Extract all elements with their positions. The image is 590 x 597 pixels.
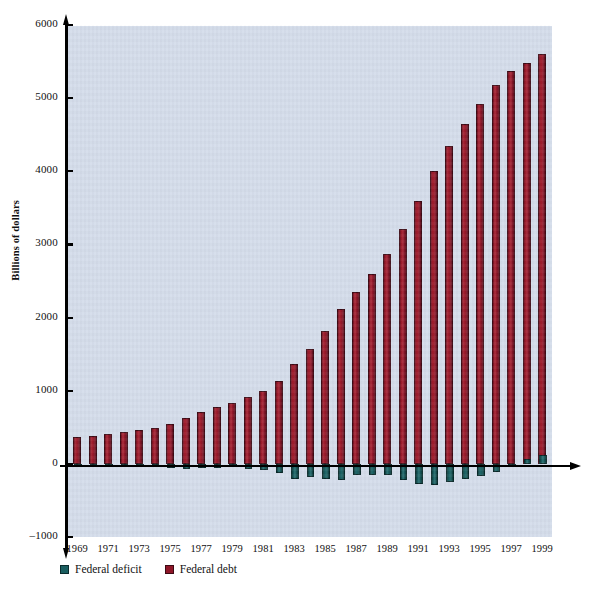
bar-federal-debt [73, 437, 81, 464]
y-axis-spine [65, 23, 68, 550]
y-axis-tick-label: 5000 [6, 90, 58, 102]
bar-federal-debt [399, 229, 407, 463]
y-axis-tick-label: –1000 [6, 529, 58, 541]
bar-federal-debt [259, 391, 267, 464]
bar-federal-debt [275, 381, 283, 464]
y-axis-tick-label: 3000 [6, 236, 58, 248]
y-axis-tick-label: 0 [6, 456, 58, 468]
bar-federal-debt [476, 104, 484, 464]
bar-federal-debt [352, 292, 360, 464]
x-axis-tick-label: 1999 [522, 543, 562, 554]
bar-federal-debt [383, 254, 391, 464]
y-axis-arrow-down-icon [63, 548, 69, 559]
y-axis-tick-label: 4000 [6, 163, 58, 175]
x-axis-arrow-right-icon [570, 462, 581, 470]
legend-item-label: Federal deficit [75, 563, 142, 575]
bar-federal-debt [228, 403, 236, 464]
bar-federal-debt [151, 428, 159, 463]
x-axis-spine [60, 465, 570, 468]
square-swatch-icon [165, 565, 174, 574]
bar-federal-debt [120, 432, 128, 464]
bar-federal-debt [197, 412, 205, 464]
bar-federal-debt [492, 85, 500, 464]
plot-top-rule [66, 25, 552, 26]
legend-item-label: Federal debt [180, 563, 237, 575]
plot-area [66, 25, 552, 537]
bar-federal-debt [523, 63, 531, 464]
bar-federal-debt [368, 274, 376, 464]
bar-federal-debt [244, 397, 252, 463]
bar-federal-debt [507, 71, 515, 464]
bar-federal-debt [414, 201, 422, 464]
bar-federal-debt [337, 309, 345, 464]
bar-federal-debt [213, 407, 221, 464]
y-axis-line [63, 14, 70, 559]
bar-federal-debt [306, 349, 314, 463]
square-swatch-icon [60, 565, 69, 574]
bar-federal-debt [135, 430, 143, 464]
bar-federal-debt [538, 54, 546, 464]
legend-item: Federal debt [165, 563, 237, 575]
bar-federal-debt [321, 331, 329, 464]
y-axis-tick-label: 2000 [6, 310, 58, 322]
federal-debt-deficit-chart: Billions of dollars 60005000400030002000… [0, 0, 590, 597]
bar-federal-debt [182, 418, 190, 464]
x-axis-line [60, 462, 581, 470]
bar-federal-debt [89, 436, 97, 464]
legend-item: Federal deficit [60, 563, 142, 575]
y-axis-tick-label: 1000 [6, 383, 58, 395]
bar-federal-debt [445, 146, 453, 464]
bar-federal-debt [290, 364, 298, 464]
bar-federal-debt [461, 124, 469, 464]
y-axis-tick-label: 6000 [6, 17, 58, 29]
chart-legend: Federal deficitFederal debt [60, 563, 237, 575]
bar-federal-debt [430, 171, 438, 464]
bar-federal-debt [166, 424, 174, 464]
bar-federal-debt [104, 434, 112, 464]
